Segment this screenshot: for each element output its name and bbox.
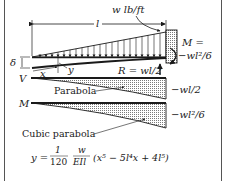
shear-axis-label: V <box>19 73 28 84</box>
shear-curve-label: Parabola <box>54 85 97 96</box>
formula-frac2-num: w <box>78 145 86 155</box>
load-label: w lb/ft <box>112 4 145 15</box>
moment-end-value: −wl²/6 <box>171 109 206 120</box>
beam-diagram: w lb/ft l <box>0 0 225 181</box>
shear-diagram <box>32 78 166 99</box>
y-label: y <box>67 64 74 75</box>
moment-diagram <box>32 103 166 128</box>
deflection-formula: y = 1 120 w EIl (x⁵ − 5l⁴x + 4l⁵) <box>30 145 169 167</box>
moment-label-line1: M = <box>181 37 204 48</box>
shear-end-value: −wl/2 <box>171 84 201 95</box>
reaction-label: R = wl/2 <box>117 65 162 76</box>
formula-lhs: y = <box>30 152 48 163</box>
load-label-leader <box>136 16 160 31</box>
moment-axis-label: M <box>18 98 30 109</box>
moment-curve-label: Cubic parabola <box>22 128 96 139</box>
length-label: l <box>96 18 99 29</box>
moment-label-line2: −wl²/6 <box>178 50 213 61</box>
triangular-load-outline <box>32 32 166 57</box>
formula-frac2-den: EIl <box>72 157 86 167</box>
delta-label: δ <box>10 57 16 68</box>
formula-frac1-num: 1 <box>55 145 61 155</box>
load-arrows <box>40 33 160 57</box>
moment-curve-leader <box>94 119 145 134</box>
formula-rhs: (x⁵ − 5l⁴x + 4l⁵) <box>93 152 169 163</box>
formula-frac1-den: 120 <box>50 157 67 167</box>
